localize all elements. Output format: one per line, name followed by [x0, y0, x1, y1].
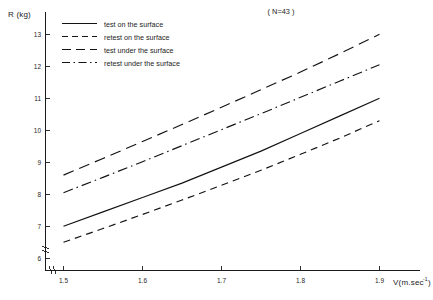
- chart-background: [0, 0, 433, 300]
- y-tick-label: 10: [34, 127, 42, 134]
- legend-label-retest-under-the-surface: retest under the surface: [104, 59, 180, 68]
- legend-label-test-under-the-surface: test under the surface: [104, 46, 174, 55]
- y-tick-label: 12: [34, 63, 42, 70]
- legend-label-retest-on-the-surface: retest on the surface: [104, 33, 170, 42]
- y-tick-label: 7: [37, 223, 41, 230]
- sample-size-annotation: ( N=43 ): [268, 7, 295, 16]
- x-tick-label: 1.7: [217, 277, 226, 284]
- x-axis-title-tail: ): [428, 278, 431, 287]
- x-tick-label: 1.8: [296, 277, 305, 284]
- y-tick-label: 9: [37, 159, 41, 166]
- y-tick-label: 6: [37, 255, 41, 262]
- legend-label-test-on-the-surface: test on the surface: [104, 20, 163, 29]
- y-tick-label: 13: [34, 31, 42, 38]
- x-axis-title-exponent: -1: [423, 276, 428, 282]
- x-tick-label: 1.9: [375, 277, 384, 284]
- y-tick-label: 11: [34, 95, 41, 102]
- x-axis-title-main: V(m.sec: [393, 278, 424, 287]
- x-tick-label: 1.5: [59, 277, 68, 284]
- x-tick-label: 1.6: [138, 277, 147, 284]
- chart-canvas: 13 12 11 10 9 8 7 6 1.5 1.6 1.7 1.8: [0, 0, 433, 300]
- y-tick-label: 8: [37, 191, 41, 198]
- y-axis-title: R (kg): [8, 10, 31, 19]
- chart-figure: 13 12 11 10 9 8 7 6 1.5 1.6 1.7 1.8: [0, 0, 433, 300]
